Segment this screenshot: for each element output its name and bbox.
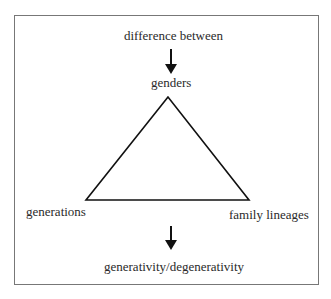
label-difference-between: difference between xyxy=(124,29,223,43)
label-family-lineages: family lineages xyxy=(229,208,309,222)
label-generations: generations xyxy=(26,205,86,219)
triangle-shape xyxy=(86,97,249,200)
label-generativity-degenerativity: generativity/degenerativity xyxy=(104,260,244,274)
diagram-graphics xyxy=(0,0,331,299)
down-arrow-icon-top xyxy=(165,49,177,74)
down-arrow-icon-bottom xyxy=(165,226,177,250)
label-genders: genders xyxy=(151,76,191,90)
